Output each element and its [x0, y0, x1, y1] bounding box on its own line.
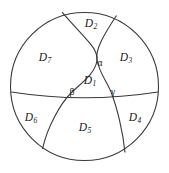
region-letter-d7: D	[39, 51, 47, 63]
region-subscript-d5: 5	[87, 126, 91, 135]
region-letter-d4: D	[129, 111, 137, 123]
region-letter-d2: D	[85, 17, 93, 29]
region-letter-d3: D	[120, 51, 128, 63]
region-subscript-d7: 7	[47, 56, 51, 65]
region-label-d6: D6	[25, 112, 37, 124]
region-subscript-d4: 4	[137, 116, 141, 125]
sphere-diagram-figure: D7 D2 D3 D1 D6 D5 D4 α β γ	[0, 0, 169, 173]
region-label-d4: D4	[129, 112, 141, 124]
region-label-d7: D7	[39, 52, 51, 64]
region-label-d3: D3	[120, 52, 132, 64]
region-letter-d6: D	[25, 111, 33, 123]
region-letter-d5: D	[79, 121, 87, 133]
region-subscript-d3: 3	[128, 56, 132, 65]
region-subscript-d6: 6	[33, 116, 37, 125]
angle-label-alpha: α	[98, 59, 103, 69]
region-subscript-d1: 1	[92, 79, 96, 88]
angle-label-beta: β	[70, 88, 75, 98]
region-label-d5: D5	[79, 122, 91, 134]
region-subscript-d2: 2	[93, 22, 97, 31]
region-letter-d1: D	[84, 74, 92, 86]
region-label-d2: D2	[85, 18, 97, 30]
angle-label-gamma: γ	[111, 88, 115, 98]
region-label-d1: D1	[84, 75, 96, 87]
